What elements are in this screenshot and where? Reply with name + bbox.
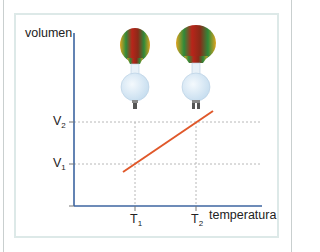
balloon-t1 <box>120 28 150 109</box>
guide-lines <box>74 122 262 206</box>
tick-t2: T2 <box>191 212 203 226</box>
balloon-t2 <box>176 25 216 109</box>
y-axis-label: volumen <box>25 26 72 40</box>
volume-temperature-line <box>123 111 213 172</box>
tick-v1: V1 <box>53 156 66 170</box>
tick-t1: T1 <box>130 212 142 226</box>
axes <box>74 33 262 206</box>
tick-v2: V2 <box>53 114 66 128</box>
x-axis-label: temperatura <box>209 208 276 222</box>
